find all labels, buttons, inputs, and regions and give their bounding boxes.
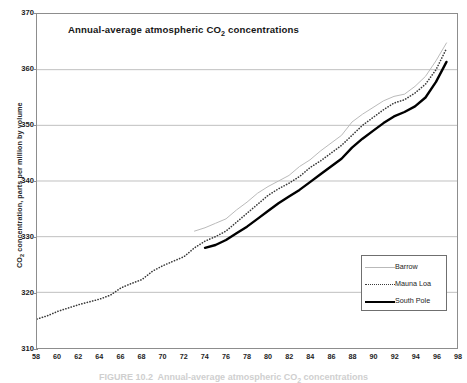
legend-label-south-pole: South Pole xyxy=(395,296,430,305)
x-tick-label: 70 xyxy=(154,352,172,361)
legend-label-barrow: Barrow xyxy=(395,262,418,271)
y-tick-label: 320 xyxy=(8,288,34,297)
figure-caption: FIGURE 10.2 Annual-average atmospheric C… xyxy=(0,372,467,383)
legend-item-south-pole: South Pole xyxy=(362,292,448,309)
x-tick-label: 88 xyxy=(344,352,362,361)
y-tick-label: 370 xyxy=(8,8,34,17)
legend-line-mauna-loa-icon xyxy=(362,279,395,289)
y-axis-ticks: 310320330340350360370 xyxy=(6,0,34,383)
figure-co2-concentrations: CO2 concentration, parts per million by … xyxy=(0,0,467,383)
y-tick-label: 360 xyxy=(8,64,34,73)
x-tick-label: 76 xyxy=(217,352,235,361)
x-tick-label: 66 xyxy=(111,352,129,361)
x-tick-label: 64 xyxy=(90,352,108,361)
x-tick-label: 84 xyxy=(301,352,319,361)
x-tick-label: 72 xyxy=(175,352,193,361)
x-tick-label: 98 xyxy=(449,352,467,361)
y-tick-label: 350 xyxy=(8,120,34,129)
x-tick-label: 90 xyxy=(365,352,383,361)
chart-legend: Barrow Mauna Loa South Pole xyxy=(361,255,447,311)
x-axis-ticks: 5860626466687072747678808284868890929496… xyxy=(0,352,467,366)
y-tick-mark xyxy=(34,349,38,350)
x-tick-label: 80 xyxy=(259,352,277,361)
x-tick-label: 92 xyxy=(386,352,404,361)
x-tick-label: 60 xyxy=(48,352,66,361)
x-tick-label: 62 xyxy=(69,352,87,361)
series-line-barrow xyxy=(195,43,447,231)
x-tick-label: 68 xyxy=(133,352,151,361)
legend-item-mauna-loa: Mauna Loa xyxy=(362,275,448,292)
x-tick-label: 82 xyxy=(280,352,298,361)
legend-item-barrow: Barrow xyxy=(362,258,448,275)
y-tick-label: 330 xyxy=(8,232,34,241)
x-tick-label: 94 xyxy=(407,352,425,361)
x-tick-label: 96 xyxy=(428,352,446,361)
x-tick-label: 58 xyxy=(27,352,45,361)
y-tick-label: 340 xyxy=(8,176,34,185)
legend-line-south-pole-icon xyxy=(362,296,395,306)
x-tick-label: 74 xyxy=(196,352,214,361)
chart-title: Annual-average atmospheric CO2 concentra… xyxy=(68,24,299,38)
x-tick-label: 78 xyxy=(238,352,256,361)
legend-line-barrow-icon xyxy=(362,262,395,272)
legend-label-mauna-loa: Mauna Loa xyxy=(395,279,431,288)
x-tick-label: 86 xyxy=(322,352,340,361)
